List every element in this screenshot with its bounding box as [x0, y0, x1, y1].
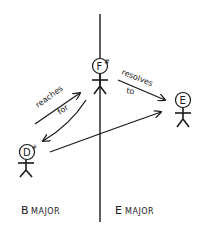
- d-sharp-accidental: #: [32, 143, 37, 150]
- d-sharp-figure: D #: [18, 143, 37, 177]
- f-sharp-accidental: #: [104, 58, 110, 66]
- f-sharp-note: F: [97, 61, 103, 72]
- f-sharp-figure: F #: [92, 58, 110, 94]
- e-note: E: [180, 95, 186, 106]
- label-resolves: resolves: [120, 68, 154, 89]
- e-major-first: E: [115, 204, 122, 217]
- b-major-first: B: [21, 204, 29, 217]
- label-to: to: [126, 86, 136, 96]
- arrow-d-sharp-to-e: [50, 112, 161, 152]
- d-sharp-note: D: [23, 147, 31, 158]
- diagram-svg: F # E D # reaches for resolves to B MAJO: [0, 0, 203, 235]
- b-major-label: B MAJOR: [21, 204, 60, 217]
- b-major-rest: MAJOR: [31, 207, 60, 216]
- e-major-rest: MAJOR: [125, 207, 154, 216]
- key-diagram: F # E D # reaches for resolves to B MAJO: [0, 0, 203, 235]
- label-for: for: [56, 102, 71, 116]
- e-figure: E: [175, 93, 191, 128]
- e-major-label: E MAJOR: [115, 204, 154, 217]
